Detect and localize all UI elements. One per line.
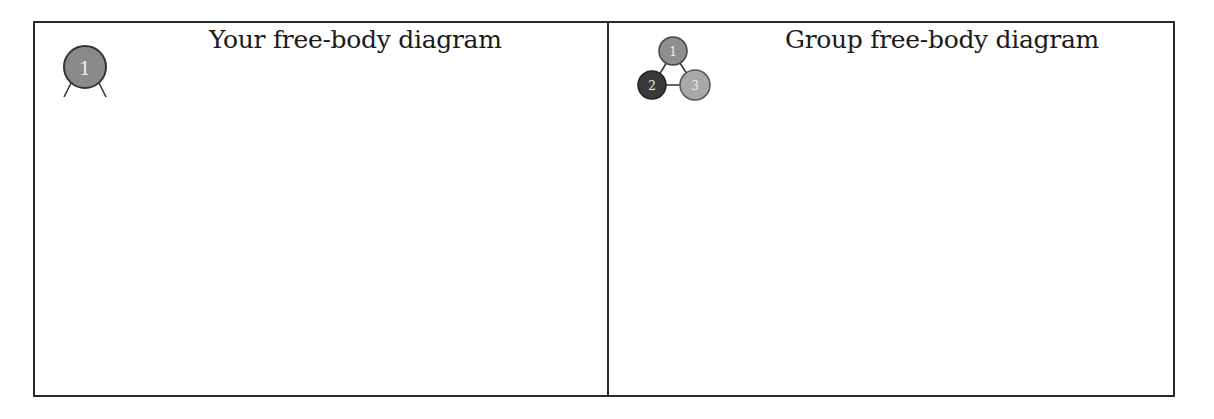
group-bodies-icon: 1 2 3 [636, 33, 722, 101]
your-diagram-title: Your free-body diagram [209, 25, 502, 54]
your-diagram-cell[interactable]: 1 Your free-body diagram [35, 23, 607, 395]
group-diagram-cell[interactable]: 1 2 3 Group free-body diagram [609, 23, 1173, 395]
group-diagram-title: Group free-body diagram [785, 25, 1099, 54]
diagram-table: 1 Your free-body diagram 1 2 3 Group fre… [33, 21, 1175, 397]
svg-text:3: 3 [691, 79, 699, 93]
svg-text:1: 1 [669, 45, 677, 59]
svg-text:2: 2 [648, 79, 656, 93]
svg-text:1: 1 [79, 58, 90, 79]
single-body-icon: 1 [57, 37, 113, 101]
